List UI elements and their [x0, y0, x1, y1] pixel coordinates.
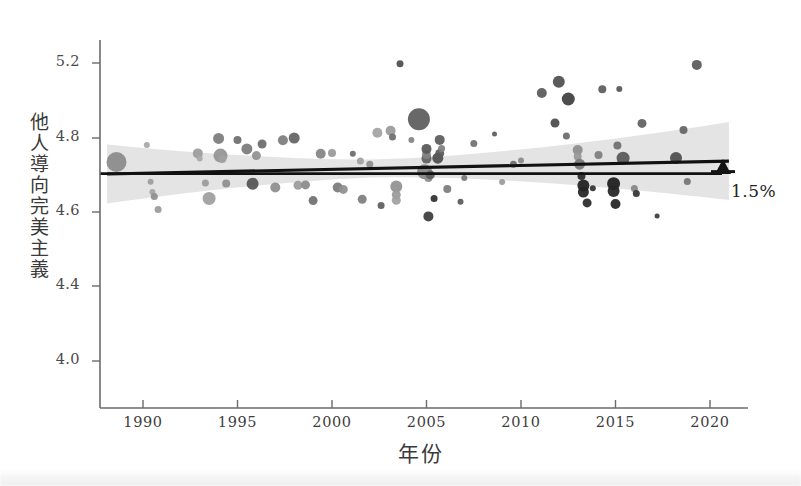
data-point: [151, 193, 158, 200]
x-tick-label: 2010: [486, 414, 556, 430]
axes-group: [92, 40, 748, 408]
x-axis-title: 年份: [0, 437, 801, 467]
x-tick-label: 2000: [297, 414, 367, 430]
y-tick-label: 4.0: [34, 351, 80, 367]
percent-change-label: 1.5%: [731, 181, 776, 201]
y-axis-title-char: 美: [22, 217, 56, 238]
data-point: [252, 151, 261, 160]
x-tick-label: 2005: [392, 414, 462, 430]
data-point: [289, 133, 300, 144]
data-point: [301, 180, 310, 189]
data-point: [144, 142, 150, 148]
data-point: [213, 133, 224, 144]
data-point: [203, 192, 216, 205]
data-point: [492, 132, 497, 137]
y-axis-title-char: 導: [22, 154, 56, 175]
data-point: [563, 133, 570, 140]
data-point: [339, 185, 348, 194]
data-point: [613, 142, 621, 150]
data-point: [270, 183, 280, 193]
data-point: [684, 178, 691, 185]
data-point: [197, 156, 203, 162]
page-edge-shadow: [0, 470, 801, 486]
data-point: [611, 199, 621, 209]
data-point: [316, 149, 326, 159]
data-point: [378, 202, 385, 209]
x-tick-label: 2015: [581, 414, 651, 430]
data-point: [222, 180, 230, 188]
data-point: [438, 145, 445, 152]
data-point: [595, 151, 603, 159]
x-tick-label: 2020: [675, 414, 745, 430]
data-point: [598, 85, 606, 93]
data-point: [247, 178, 259, 190]
data-point: [551, 119, 560, 128]
y-tick-label: 5.2: [34, 53, 80, 69]
data-point: [431, 195, 438, 202]
data-point: [461, 175, 467, 181]
x-tick-label: 1995: [203, 414, 273, 430]
data-point: [608, 185, 620, 197]
data-point: [443, 185, 451, 193]
data-point: [422, 144, 432, 154]
data-point: [435, 135, 445, 145]
data-point: [328, 149, 336, 157]
chart-figure: 他 人 導 向 完 美 主 義 年份 5.24.84.64.44.0 19901…: [0, 0, 801, 486]
data-point: [278, 135, 288, 145]
y-tick-label: 4.8: [34, 128, 80, 144]
data-point: [218, 155, 226, 163]
data-point: [655, 214, 660, 219]
data-point: [537, 88, 547, 98]
data-point: [357, 157, 364, 164]
data-point: [202, 180, 209, 187]
data-point: [458, 199, 464, 205]
data-point: [562, 93, 575, 106]
data-point: [616, 86, 622, 92]
data-point: [692, 60, 702, 70]
data-point: [680, 126, 688, 134]
x-tick-label: 1990: [108, 414, 178, 430]
data-point: [408, 108, 430, 130]
data-point: [633, 190, 640, 197]
data-point: [389, 133, 396, 140]
data-point: [578, 187, 589, 198]
data-point: [392, 196, 401, 205]
data-point: [518, 158, 524, 164]
data-point: [553, 76, 565, 88]
data-point: [408, 137, 414, 143]
data-point: [309, 196, 318, 205]
data-point: [470, 140, 477, 147]
data-point: [350, 151, 356, 157]
data-point: [583, 198, 592, 207]
data-point: [397, 60, 404, 67]
data-point: [590, 185, 596, 191]
data-point: [499, 179, 505, 185]
data-point: [358, 195, 367, 204]
data-point: [155, 206, 162, 213]
y-axis-title-char: 向: [22, 175, 56, 196]
y-axis-title-char: 主: [22, 238, 56, 259]
data-point: [234, 136, 242, 144]
data-point: [241, 143, 252, 154]
data-point: [148, 179, 154, 185]
data-point: [258, 140, 267, 149]
data-point: [107, 152, 127, 172]
y-tick-label: 4.6: [34, 202, 80, 218]
data-point: [366, 161, 373, 168]
data-point: [372, 128, 382, 138]
data-point: [423, 211, 433, 221]
y-tick-label: 4.4: [34, 276, 80, 292]
data-point: [638, 119, 647, 128]
